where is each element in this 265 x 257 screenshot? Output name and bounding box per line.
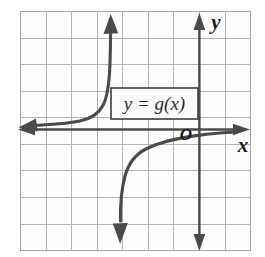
origin-label: O: [180, 125, 192, 144]
coordinate-plane-svg: y = g(x) O x y: [0, 0, 265, 257]
equation-label-text: y = g(x): [122, 93, 185, 115]
equation-label-box: y = g(x): [111, 88, 198, 119]
grid-border: [21, 12, 251, 251]
graph-figure: y = g(x) O x y: [0, 0, 265, 257]
x-axis-label: x: [237, 133, 249, 157]
grid: [21, 12, 251, 251]
